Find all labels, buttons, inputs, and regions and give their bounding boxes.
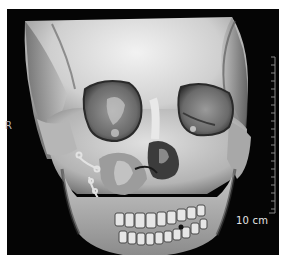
- orientation-label: R: [5, 120, 12, 131]
- scale-ruler: [269, 57, 275, 213]
- scale-bar-label: 10 cm: [236, 215, 268, 226]
- left-orbit: [178, 84, 233, 135]
